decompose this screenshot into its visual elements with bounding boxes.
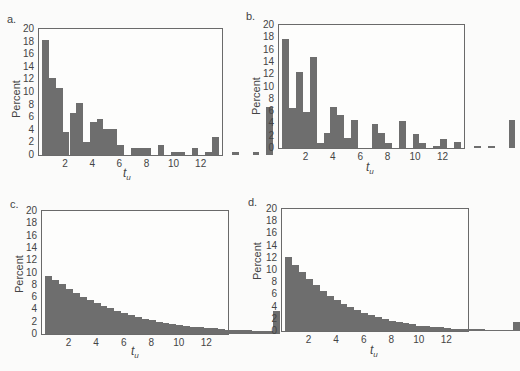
histogram-bar <box>163 323 170 334</box>
y-tick-label: 18 <box>258 31 274 42</box>
plot-area <box>38 28 223 156</box>
x-tick-label: 6 <box>354 334 374 345</box>
histogram-bar <box>430 327 437 331</box>
y-tick-label: 12 <box>258 68 274 79</box>
histogram-bar <box>73 293 80 334</box>
y-tick-label: 2 <box>261 313 277 324</box>
histogram-bar <box>513 322 520 331</box>
histogram-bar <box>212 137 219 155</box>
histogram-bar <box>97 119 104 155</box>
histogram-bar <box>52 280 59 334</box>
x-tick-label: 12 <box>436 334 456 345</box>
histogram-bar <box>396 322 403 331</box>
histogram-bar <box>192 148 199 155</box>
histogram-bar <box>368 315 375 331</box>
histogram-bar <box>334 300 341 331</box>
histogram-bar <box>474 146 481 148</box>
y-tick-label: 16 <box>261 227 277 238</box>
x-tick-label: 6 <box>350 151 370 162</box>
histogram-bar <box>176 325 183 334</box>
histogram-bar <box>458 329 465 331</box>
histogram-bar <box>361 313 368 331</box>
histogram-bar <box>324 133 331 148</box>
histogram-bar <box>413 134 420 148</box>
panel-label: d. <box>248 196 257 208</box>
histogram-bar <box>144 148 151 155</box>
x-tick-label: 2 <box>55 158 75 169</box>
y-tick-label: 12 <box>18 73 34 84</box>
histogram-bar <box>385 143 392 148</box>
x-tick-label: 12 <box>196 337 216 348</box>
histogram-bar <box>292 265 299 331</box>
y-tick-label: 8 <box>258 93 274 104</box>
histogram-bar <box>488 146 495 148</box>
histogram-bar <box>433 146 440 148</box>
histogram-bar <box>117 145 124 155</box>
x-tick-label: 8 <box>141 337 161 348</box>
x-tick-label: 8 <box>381 334 401 345</box>
histogram-bar <box>499 330 506 331</box>
histogram-bar <box>178 152 185 155</box>
histogram-bar <box>131 148 138 155</box>
histogram-bar <box>296 72 303 148</box>
y-tick-label: 14 <box>18 61 34 72</box>
y-tick-label: 16 <box>21 230 37 241</box>
y-tick-label: 18 <box>261 215 277 226</box>
histogram-bar <box>205 152 212 155</box>
y-tick-label: 20 <box>258 19 274 30</box>
y-tick-label: 18 <box>18 36 34 47</box>
y-tick-label: 6 <box>261 288 277 299</box>
plot-area <box>41 210 229 335</box>
x-tick-label: 12 <box>191 158 211 169</box>
histogram-bar <box>80 297 87 335</box>
y-tick-label: 8 <box>18 99 34 110</box>
histogram-bar <box>306 279 313 331</box>
x-tick-label: 8 <box>378 151 398 162</box>
histogram-bar <box>190 327 197 334</box>
histogram-bar <box>70 113 77 155</box>
x-axis-label: tu <box>370 343 378 359</box>
histogram-bar <box>211 328 218 334</box>
y-tick-label: 2 <box>21 316 37 327</box>
histogram-bar <box>416 326 423 331</box>
histogram-bar <box>158 145 165 155</box>
histogram-bar <box>409 324 416 331</box>
histogram-bar <box>232 152 239 155</box>
histogram-bar <box>440 139 447 148</box>
histogram-bar <box>171 152 178 155</box>
histogram-bar <box>169 324 176 334</box>
histogram-bar <box>225 330 232 334</box>
histogram-bar <box>87 300 94 334</box>
histogram-bar <box>317 143 324 148</box>
y-tick-label: 4 <box>18 124 34 135</box>
panel-label: b. <box>246 10 255 22</box>
histogram-bar <box>451 329 458 331</box>
x-tick-label: 10 <box>409 334 429 345</box>
histogram-bar <box>354 310 361 331</box>
histogram-bar <box>83 142 90 155</box>
histogram-bar <box>103 129 110 155</box>
histogram-bar <box>454 142 461 148</box>
histogram-bar <box>110 129 117 155</box>
y-tick-label: 4 <box>258 117 274 128</box>
histogram-bar <box>492 330 499 331</box>
histogram-bar <box>66 289 73 335</box>
histogram-bar <box>245 330 252 334</box>
y-tick-label: 10 <box>258 81 274 92</box>
y-tick-label: 0 <box>21 328 37 339</box>
y-tick-label: 14 <box>21 242 37 253</box>
x-tick-label: 2 <box>299 334 319 345</box>
histogram-bar <box>437 327 444 331</box>
histogram-bar <box>90 122 97 155</box>
histogram-bar <box>399 121 406 148</box>
histogram-bar <box>94 303 101 334</box>
histogram-bar <box>344 138 351 148</box>
histogram-bar <box>121 313 128 334</box>
x-tick-label: 4 <box>326 334 346 345</box>
y-tick-label: 10 <box>261 264 277 275</box>
plot-area <box>278 24 465 149</box>
histogram-bar <box>327 296 334 331</box>
y-tick-label: 16 <box>18 48 34 59</box>
histogram-bar <box>107 308 114 334</box>
histogram-bar <box>252 331 259 334</box>
